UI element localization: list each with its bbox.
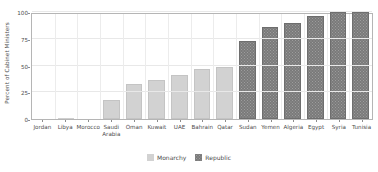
y-axis-tick-label: 25 [21,90,28,96]
bar-slot [168,14,191,119]
x-axis-tick-label: Oman [123,120,146,146]
bar-slot [236,14,259,119]
legend-item-republic: Republic [195,154,231,161]
y-axis-tick-label: 75 [21,37,28,43]
bar-slot [304,14,327,119]
gridline-vertical [145,14,146,119]
bar[interactable] [126,84,143,119]
gridline-vertical [281,14,282,119]
x-axis-tick-mark [157,120,158,122]
bar[interactable] [352,12,369,119]
bar[interactable] [171,75,188,119]
x-axis-tick-mark [248,120,249,122]
y-axis-tick-mark [28,93,30,94]
gridline-vertical [100,14,101,119]
x-axis-tick-mark [42,120,43,122]
bar[interactable] [194,69,211,119]
x-axis-tick-label: Syria [327,120,350,146]
gridline-horizontal [32,38,372,39]
gridline-horizontal [32,11,372,12]
x-axis-tick-mark [271,120,272,122]
x-axis-tick-mark [65,120,66,122]
gridline-vertical [236,14,237,119]
y-axis-label: Percent of Cabinet Ministers [4,22,10,103]
bar-slot [213,14,236,119]
x-axis-tick-label: Tunisia [350,120,373,146]
x-axis-tick-label: UAE [168,120,191,146]
x-axis-tick-label: Saudi Arabia [100,120,123,146]
bar-slot [145,14,168,119]
bar-slot [259,14,282,119]
x-axis-tick-label: Bahrain [191,120,214,146]
legend-swatch-monarchy-icon [147,154,154,161]
gridline-vertical [77,14,78,119]
legend-swatch-republic-icon [195,154,202,161]
plot-area [31,13,373,120]
x-axis-tick-mark [316,120,317,122]
bar-slot [349,14,372,119]
gridline-vertical [259,14,260,119]
x-axis-tick-mark [180,120,181,122]
bar-slot [100,14,123,119]
y-axis-tick-label: 0 [24,117,28,123]
x-axis-tick-label: Algeria [282,120,305,146]
bar[interactable] [103,100,120,119]
x-axis-tick-label: Libya [54,120,77,146]
y-axis-tick-mark [28,120,30,121]
gridline-vertical [55,14,56,119]
y-axis-label-container: Percent of Cabinet Ministers [0,0,14,125]
y-axis-tick-label: 50 [21,64,28,70]
bar-slot [281,14,304,119]
x-axis-tick-label: Sudan [236,120,259,146]
x-axis-tick-mark [293,120,294,122]
bar[interactable] [262,27,279,119]
gridline-vertical [123,14,124,119]
bar-chart-figure: Percent of Cabinet Ministers 0255075100 … [0,0,378,172]
bar-slot [55,14,78,119]
bar-slot [32,14,55,119]
x-axis-tick-mark [339,120,340,122]
gridline-vertical [213,14,214,119]
bar[interactable] [239,41,256,119]
x-axis-tick-mark [111,120,112,122]
gridline-vertical [349,14,350,119]
x-axis-tick-label: Kuwait [145,120,168,146]
gridline-horizontal [32,65,372,66]
x-axis-tick-label: Egypt [305,120,328,146]
x-axis-tick-label: Jordan [31,120,54,146]
x-axis-tick-mark [362,120,363,122]
x-axis-tick-mark [134,120,135,122]
chart-legend: Monarchy Republic [0,154,378,161]
x-axis-tick-mark [225,120,226,122]
x-axis-tick-label: Qatar [214,120,237,146]
gridline-vertical [327,14,328,119]
y-axis-tick-labels: 0255075100 [14,0,30,125]
bar[interactable] [148,80,165,119]
legend-label-republic: Republic [205,154,231,161]
bar[interactable] [330,12,347,119]
y-axis-tick-mark [28,13,30,14]
bar-slot [77,14,100,119]
x-axis-tick-label: Morocco [77,120,100,146]
gridline-horizontal [32,91,372,92]
x-axis-tick-label: Yemen [259,120,282,146]
gridline-vertical [191,14,192,119]
bar-slot [123,14,146,119]
gridline-vertical [304,14,305,119]
legend-label-monarchy: Monarchy [157,154,186,161]
legend-item-monarchy: Monarchy [147,154,186,161]
bar-slot [327,14,350,119]
y-axis-tick-mark [28,67,30,68]
bar-group [32,14,372,119]
gridline-vertical [168,14,169,119]
x-axis-tick-mark [88,120,89,122]
bar[interactable] [58,118,75,119]
y-axis-tick-label: 100 [17,10,28,16]
x-axis-tick-labels: JordanLibyaMoroccoSaudi ArabiaOmanKuwait… [31,120,373,146]
y-axis-tick-mark [28,40,30,41]
bar[interactable] [307,16,324,119]
bar-slot [191,14,214,119]
bar[interactable] [216,67,233,119]
x-axis-tick-mark [202,120,203,122]
